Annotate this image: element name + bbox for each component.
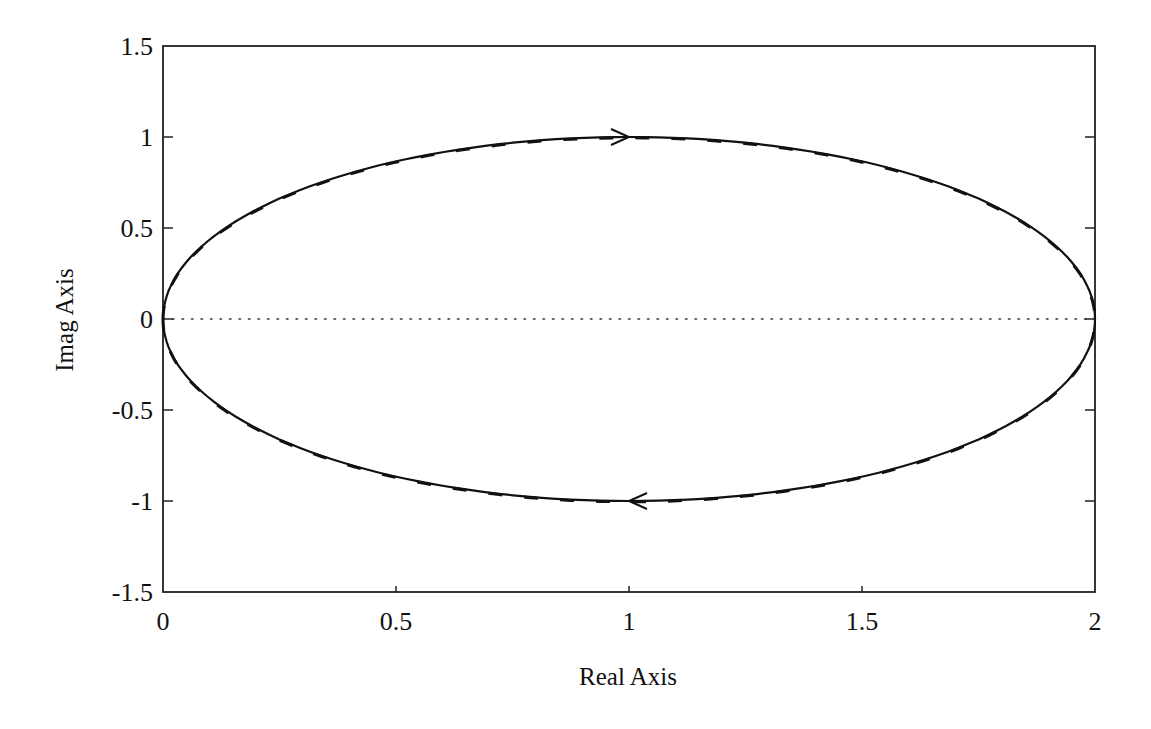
x-tick-label: 2 bbox=[1089, 607, 1102, 636]
nyquist-plot: -1.5-1-0.500.511.5 00.511.52 Real Axis I… bbox=[0, 0, 1151, 729]
contour-dashed bbox=[163, 138, 1095, 502]
x-tick-label: 0 bbox=[157, 607, 170, 636]
y-tick-label: 1.5 bbox=[121, 32, 154, 61]
x-tick-label: 1.5 bbox=[846, 607, 879, 636]
y-tick-label: -1 bbox=[131, 487, 153, 516]
y-tick-label: 0 bbox=[140, 305, 153, 334]
x-axis-ticks: 00.511.52 bbox=[157, 586, 1102, 636]
x-tick-label: 1 bbox=[623, 607, 636, 636]
x-tick-label: 0.5 bbox=[380, 607, 413, 636]
x-axis-label: Real Axis bbox=[579, 663, 677, 690]
plot-area bbox=[163, 46, 1095, 592]
y-tick-label: 0.5 bbox=[121, 214, 154, 243]
y-tick-label: -0.5 bbox=[112, 396, 153, 425]
y-tick-label: -1.5 bbox=[112, 578, 153, 607]
y-tick-label: 1 bbox=[140, 123, 153, 152]
y-axis-label: Imag Axis bbox=[51, 268, 78, 371]
